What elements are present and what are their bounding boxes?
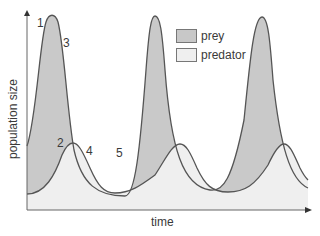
y-axis-arrow-icon bbox=[24, 10, 30, 16]
annotation-1: 1 bbox=[37, 17, 44, 29]
legend-item-prey: prey bbox=[176, 26, 246, 45]
x-axis-label: time bbox=[151, 215, 174, 229]
legend-label-prey: prey bbox=[201, 29, 224, 43]
predator-prey-chart bbox=[0, 0, 320, 236]
y-axis-label: population size bbox=[6, 74, 20, 164]
legend: prey predator bbox=[176, 26, 246, 64]
annotation-3: 3 bbox=[63, 37, 70, 49]
predator-swatch-icon bbox=[176, 48, 197, 62]
annotation-2: 2 bbox=[57, 137, 64, 149]
annotation-5: 5 bbox=[116, 147, 123, 159]
legend-item-predator: predator bbox=[176, 45, 246, 64]
prey-swatch-icon bbox=[176, 29, 197, 43]
legend-label-predator: predator bbox=[201, 48, 246, 62]
x-axis-arrow-icon bbox=[305, 207, 312, 213]
annotation-4: 4 bbox=[86, 145, 93, 157]
